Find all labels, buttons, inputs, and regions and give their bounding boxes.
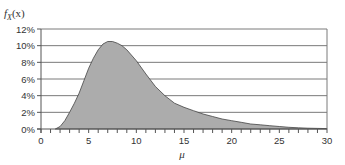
y-tick-label: 8% — [21, 57, 35, 68]
y-tick-label: 6% — [21, 74, 35, 85]
y-tick-labels: 0%2%4%6%8%10%12% — [16, 24, 36, 135]
x-tick-label: 25 — [274, 135, 285, 146]
x-tick-label: 20 — [226, 135, 237, 146]
y-tick-label: 4% — [21, 90, 35, 101]
x-tick-label: 15 — [179, 135, 190, 146]
x-tick-label: 10 — [131, 135, 142, 146]
x-tick-label: 5 — [86, 135, 91, 146]
density-chart: 0%2%4%6%8%10%12% 051015202530 fX(x) μ — [0, 0, 345, 165]
y-tick-label: 2% — [21, 107, 35, 118]
y-tick-label: 10% — [16, 40, 36, 51]
y-axis-title: fX(x) — [4, 7, 25, 22]
density-area — [55, 42, 327, 130]
x-tick-label: 0 — [38, 135, 43, 146]
x-tick-label: 30 — [322, 135, 333, 146]
x-tick-labels: 051015202530 — [38, 135, 332, 146]
y-tick-label: 12% — [16, 24, 36, 35]
x-axis-title: μ — [178, 148, 185, 160]
y-tick-label: 0% — [21, 124, 35, 135]
